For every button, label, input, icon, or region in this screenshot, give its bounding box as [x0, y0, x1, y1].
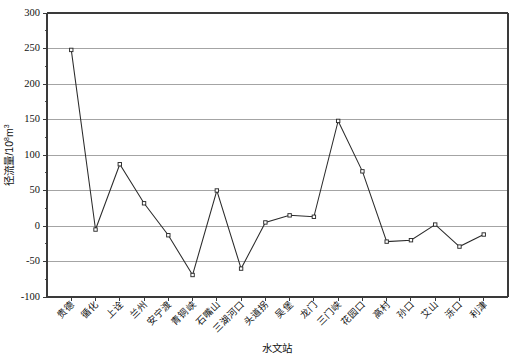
y-axis-title-base: 径流量/10 — [3, 141, 15, 186]
y-tick-label-300: 300 — [24, 7, 40, 18]
chart-canvas: -100-50050100150200250300 贵德循化上诠兰州安宁渡青铜峡… — [0, 0, 516, 360]
data-marker — [142, 202, 145, 205]
y-tick-label-50: 50 — [30, 184, 41, 195]
data-marker — [409, 239, 412, 242]
data-marker — [264, 221, 267, 224]
data-marker — [70, 48, 73, 51]
data-marker — [118, 163, 121, 166]
x-axis-title: 水文站 — [262, 342, 293, 354]
y-tick-label-150: 150 — [24, 113, 40, 124]
data-marker — [385, 240, 388, 243]
data-marker — [458, 245, 461, 248]
data-marker — [288, 214, 291, 217]
y-tick-label--100: -100 — [21, 291, 40, 302]
y-axis-title-unit-exponent: 3 — [3, 124, 10, 128]
data-marker — [482, 233, 485, 236]
data-marker — [239, 267, 242, 270]
svg-text:径流量/108m3: 径流量/108m3 — [3, 124, 15, 185]
data-marker — [94, 228, 97, 231]
y-axis-title: 径流量/108m3 — [3, 124, 15, 185]
data-marker — [167, 234, 170, 237]
y-tick-label--50: -50 — [26, 255, 40, 266]
data-marker — [191, 273, 194, 276]
data-marker — [215, 189, 218, 192]
data-marker — [434, 223, 437, 226]
chart-figure: -100-50050100150200250300 贵德循化上诠兰州安宁渡青铜峡… — [0, 0, 516, 360]
y-tick-label-0: 0 — [35, 220, 40, 231]
y-tick-label-100: 100 — [24, 149, 40, 160]
y-tick-label-250: 250 — [24, 42, 40, 53]
y-axis-title-unit: m — [3, 128, 15, 137]
data-marker — [336, 119, 339, 122]
data-marker — [312, 215, 315, 218]
y-tick-label-200: 200 — [24, 78, 40, 89]
data-marker — [361, 170, 364, 173]
